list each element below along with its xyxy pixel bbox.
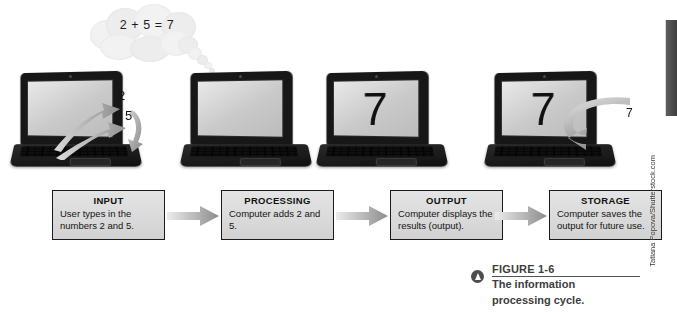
flow-box-title: OUTPUT xyxy=(395,195,498,206)
figure-canvas: 2 + 5 = 7 7 xyxy=(0,0,677,312)
figure-caption-line2: processing cycle. xyxy=(492,293,671,309)
circle-play-icon xyxy=(471,270,484,283)
flow-box-output[interactable]: OUTPUT Computer displays the results (ou… xyxy=(390,190,503,240)
storage-number-seven: 7 xyxy=(626,106,633,120)
laptop-base xyxy=(179,144,312,166)
laptop-screen: 7 xyxy=(333,79,419,137)
flow-box-desc: User types in the numbers 2 and 5. xyxy=(57,208,160,231)
flow-arrow-2 xyxy=(336,206,388,226)
flow-arrow-1 xyxy=(167,206,219,226)
thought-bubble-equation: 2 + 5 = 7 xyxy=(86,18,208,32)
figure-caption-line1: The information xyxy=(492,277,671,293)
right-arrow-icon xyxy=(336,206,388,226)
laptop-screen xyxy=(197,79,283,137)
figure-caption: FIGURE 1-6 The information processing cy… xyxy=(471,263,671,309)
flow-box-processing[interactable]: PROCESSING Computer adds 2 and 5. xyxy=(221,190,334,240)
input-arrows-group: 2 5 xyxy=(52,88,162,160)
laptop-processing xyxy=(182,72,314,168)
screen-digit: 7 xyxy=(363,85,388,131)
keyboard xyxy=(190,146,299,156)
right-arrow-icon xyxy=(167,206,219,226)
laptop-lid: 7 xyxy=(326,71,428,147)
flow-box-desc: Computer displays the results (output). xyxy=(395,208,498,231)
flow-box-desc: Computer adds 2 and 5. xyxy=(226,208,329,231)
flow-arrow-3 xyxy=(495,206,547,226)
laptop-base xyxy=(315,144,448,166)
loop-arrow xyxy=(564,97,630,150)
input-number-five: 5 xyxy=(125,108,132,123)
laptop-lid xyxy=(190,71,292,147)
flow-box-desc: Computer saves the output for future use… xyxy=(554,208,657,231)
right-arrow-icon xyxy=(495,206,547,226)
figure-label: FIGURE 1-6 xyxy=(492,263,640,277)
screen-digit: 7 xyxy=(531,85,556,131)
touchpad xyxy=(375,158,416,166)
touchpad xyxy=(239,158,280,166)
flow-box-title: INPUT xyxy=(57,195,160,206)
storage-loop-svg xyxy=(560,92,660,160)
storage-loop-arrow-group: 7 xyxy=(560,92,660,160)
laptop-output: 7 xyxy=(318,72,450,168)
photo-credit: Tatiana Popova/Shutterstock.com xyxy=(648,155,657,267)
flow-box-storage[interactable]: STORAGE Computer saves the output for fu… xyxy=(549,190,662,240)
input-arrows-svg xyxy=(52,88,162,160)
flow-box-title: STORAGE xyxy=(554,195,657,206)
keyboard xyxy=(326,146,435,156)
thought-bubble: 2 + 5 = 7 xyxy=(86,2,226,74)
page-edge-tab xyxy=(665,20,677,116)
input-number-two: 2 xyxy=(118,88,125,103)
flow-box-input[interactable]: INPUT User types in the numbers 2 and 5. xyxy=(52,190,165,240)
flow-box-title: PROCESSING xyxy=(226,195,329,206)
